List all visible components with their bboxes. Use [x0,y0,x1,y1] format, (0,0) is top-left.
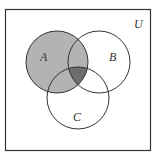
set-a-label: A [39,50,48,64]
venn-diagram: U A B C [0,0,157,156]
universe-label: U [134,17,144,31]
set-c-label: C [73,110,82,124]
set-b-label: B [109,50,117,64]
